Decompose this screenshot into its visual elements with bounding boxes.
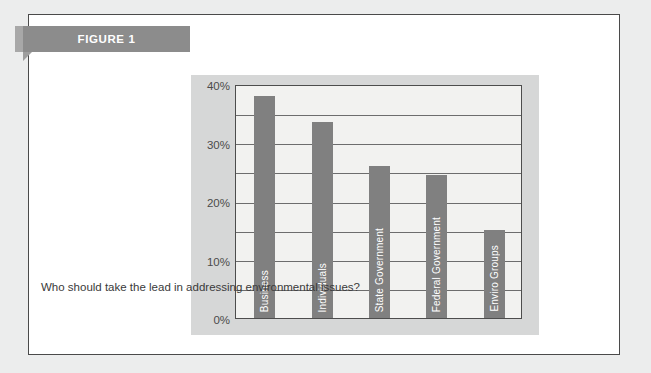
- gridline: [236, 115, 521, 116]
- y-axis-tick-label: 30%: [207, 139, 230, 151]
- bar-category-label: State Government: [374, 228, 385, 312]
- bar: Federal Government: [426, 175, 447, 318]
- bar-category-label: Enviro Groups: [489, 245, 500, 312]
- y-axis-tick-label: 10%: [207, 256, 230, 268]
- y-axis-tick-label: 40%: [207, 80, 230, 92]
- figure-card: 0%10%20%30%40%BusinessIndividualsState G…: [28, 14, 620, 355]
- y-axis-tick-label: 20%: [207, 197, 230, 209]
- ribbon-left-tab: [15, 26, 23, 52]
- figure-number-label: FIGURE 1: [78, 33, 136, 45]
- figure-caption: Who should take the lead in addressing e…: [41, 281, 601, 293]
- page-background: 0%10%20%30%40%BusinessIndividualsState G…: [0, 0, 651, 373]
- bar-category-label: Federal Government: [431, 217, 442, 312]
- gridline: [236, 144, 521, 145]
- chart-panel: 0%10%20%30%40%BusinessIndividualsState G…: [191, 75, 539, 335]
- ribbon-banner: FIGURE 1: [23, 26, 190, 52]
- y-axis-tick-label: 0%: [213, 314, 230, 326]
- ribbon-fold-corner: [23, 52, 32, 61]
- bar: State Government: [369, 166, 390, 318]
- bar: Enviro Groups: [484, 230, 505, 318]
- figure-ribbon: FIGURE 1: [15, 26, 190, 52]
